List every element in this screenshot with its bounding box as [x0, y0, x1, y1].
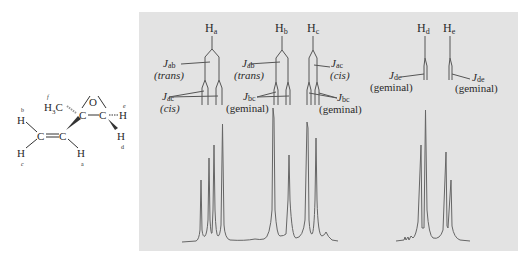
signal-label-he: He	[443, 21, 456, 36]
coupling-desc-jbc-c: (geminal)	[319, 103, 362, 116]
leader-jac-c	[314, 65, 330, 67]
coupling-desc-jab-a: (trans)	[154, 69, 184, 82]
signal-label-hc: Hc	[307, 21, 320, 36]
leader-jde-d	[401, 74, 424, 77]
nmr-spectrum: Ha Hb Hc Hd He Jab (trans) Jac (cis) Jab…	[0, 0, 531, 263]
signal-label-hb: Hb	[275, 21, 288, 36]
signal-label-hd: Hd	[417, 21, 430, 36]
tree-hd	[424, 36, 427, 80]
spectrum-trace-vinyl	[182, 108, 338, 242]
tree-ha	[202, 36, 222, 105]
coupling-desc-jbc-b: (geminal)	[226, 102, 269, 115]
coupling-desc-jde-d: (geminal)	[370, 81, 413, 94]
leader-jab-a	[181, 62, 210, 64]
coupling-desc-jde-e: (geminal)	[455, 82, 498, 95]
coupling-desc-jac-c: (cis)	[330, 69, 350, 82]
tree-hb	[274, 36, 290, 105]
coupling-desc-jac-a: (cis)	[160, 102, 180, 115]
tree-he	[449, 36, 452, 80]
leader-jde-e	[452, 74, 470, 79]
spectrum-trace-epoxide	[396, 110, 470, 241]
coupling-desc-jab-b: (trans)	[234, 69, 264, 82]
signal-label-ha: Ha	[205, 21, 218, 36]
